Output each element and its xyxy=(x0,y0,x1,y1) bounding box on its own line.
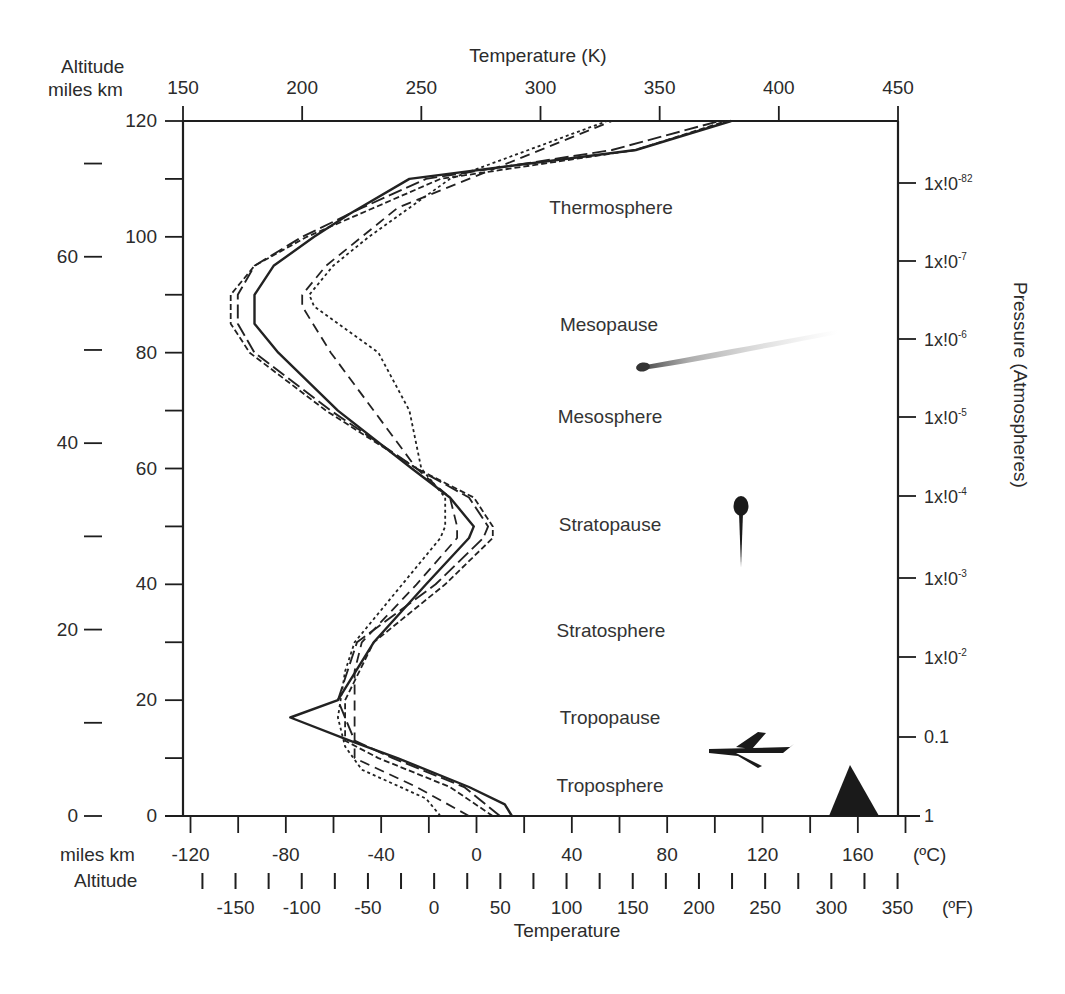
fahrenheit-tick-label: -100 xyxy=(283,898,321,917)
meteor-icon xyxy=(635,330,838,373)
region-label-mesosphere: Mesosphere xyxy=(558,406,663,428)
altitude-units-footer: miles km xyxy=(60,845,135,864)
plot-frame xyxy=(165,121,920,816)
region-label-troposphere: Troposphere xyxy=(556,775,663,797)
fahrenheit-unit-label: (ºF) xyxy=(942,898,973,917)
annotation-icons xyxy=(635,330,879,816)
bottom-axis-title: Temperature xyxy=(514,921,621,940)
mile-tick-label: 20 xyxy=(57,620,78,639)
mile-tick-label: 40 xyxy=(57,433,78,452)
top-tick-label: 350 xyxy=(644,78,676,97)
top-tick-label: 250 xyxy=(405,78,437,97)
fahrenheit-tick-label: 200 xyxy=(683,898,715,917)
atmosphere-temperature-chart xyxy=(0,0,1065,994)
km-tick-label: 0 xyxy=(146,806,157,825)
fahrenheit-tick-label: 350 xyxy=(882,898,914,917)
km-tick-label: 80 xyxy=(136,343,157,362)
top-axis-title: Temperature (K) xyxy=(469,46,606,65)
celsius-tick-label: -120 xyxy=(171,845,209,864)
fahrenheit-tick-label: 300 xyxy=(816,898,848,917)
celsius-tick-label: 160 xyxy=(842,845,874,864)
altitude-header-label: Altitude xyxy=(61,57,124,76)
pressure-tick-label: 1x!0-7 xyxy=(924,251,967,273)
fahrenheit-tick-label: 150 xyxy=(617,898,649,917)
pressure-tick-label: 1x!0-5 xyxy=(924,407,967,429)
celsius-tick-label: 80 xyxy=(657,845,678,864)
km-tick-label: 20 xyxy=(136,690,157,709)
airplane-icon xyxy=(709,732,794,768)
balloon-icon xyxy=(734,496,749,567)
pressure-tick-label: 1x!0-4 xyxy=(924,486,967,508)
celsius-tick-label: 0 xyxy=(471,845,482,864)
region-label-stratosphere: Stratosphere xyxy=(557,620,666,642)
km-tick-label: 120 xyxy=(125,111,157,130)
pressure-tick-label: 0.1 xyxy=(924,727,949,748)
pressure-axis-title: Pressure (Atmospheres) xyxy=(1009,282,1031,488)
pressure-tick-label: 1 xyxy=(924,806,934,827)
celsius-tick-label: -80 xyxy=(272,845,299,864)
fahrenheit-tick-label: 50 xyxy=(490,898,511,917)
mile-tick-label: 0 xyxy=(67,806,78,825)
celsius-unit-label: (ºC) xyxy=(913,845,946,864)
fahrenheit-tick-label: -50 xyxy=(354,898,381,917)
km-tick-label: 60 xyxy=(136,459,157,478)
altitude-units-header: miles km xyxy=(48,80,123,99)
top-tick-label: 400 xyxy=(763,78,795,97)
mile-tick-label: 60 xyxy=(57,247,78,266)
km-tick-label: 40 xyxy=(136,574,157,593)
top-tick-label: 200 xyxy=(286,78,318,97)
altitude-footer-label: Altitude xyxy=(74,871,137,890)
region-label-tropopause: Tropopause xyxy=(560,707,661,729)
pressure-tick-label: 1x!0-3 xyxy=(924,568,967,590)
km-tick-label: 100 xyxy=(125,227,157,246)
celsius-tick-label: -40 xyxy=(367,845,394,864)
mountain-icon xyxy=(829,765,879,816)
pressure-tick-label: 1x!0-82 xyxy=(924,173,972,195)
fahrenheit-tick-label: 100 xyxy=(551,898,583,917)
top-tick-label: 150 xyxy=(167,78,199,97)
region-label-mesopause: Mesopause xyxy=(560,314,658,336)
fahrenheit-tick-label: 250 xyxy=(749,898,781,917)
axis-ticks xyxy=(84,106,916,889)
pressure-tick-label: 1x!0-2 xyxy=(924,647,967,669)
fahrenheit-tick-label: -150 xyxy=(217,898,255,917)
region-label-thermosphere: Thermosphere xyxy=(549,197,673,219)
region-label-stratopause: Stratopause xyxy=(559,514,661,536)
celsius-tick-label: 40 xyxy=(561,845,582,864)
celsius-tick-label: 120 xyxy=(747,845,779,864)
pressure-tick-label: 1x!0-6 xyxy=(924,329,967,351)
top-tick-label: 450 xyxy=(882,78,914,97)
top-tick-label: 300 xyxy=(525,78,557,97)
fahrenheit-tick-label: 0 xyxy=(429,898,440,917)
